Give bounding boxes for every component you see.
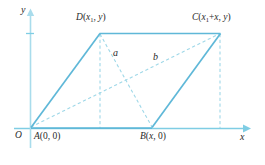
point-C-label: C(x1+x, y) bbox=[192, 13, 231, 23]
point-B-coords: (x, 0) bbox=[146, 131, 166, 141]
point-A-coords: (0, 0) bbox=[40, 131, 61, 141]
point-A-label: A(0, 0) bbox=[34, 132, 60, 142]
point-D-close: ) bbox=[102, 12, 105, 22]
segment-a-label: a bbox=[113, 48, 118, 58]
segment-b-label: b bbox=[153, 52, 158, 62]
y-axis-label: y bbox=[21, 5, 25, 15]
point-B-label: B(x, 0) bbox=[140, 132, 166, 142]
point-D-name: D bbox=[76, 12, 83, 22]
origin-label: O bbox=[15, 131, 22, 141]
point-C-close: ) bbox=[228, 12, 231, 22]
x-axis-label: x bbox=[240, 132, 244, 142]
point-D-x1: x1 bbox=[86, 12, 93, 22]
point-C-x1: x1 bbox=[202, 12, 209, 22]
point-D-label: D(x1, y) bbox=[76, 13, 106, 23]
